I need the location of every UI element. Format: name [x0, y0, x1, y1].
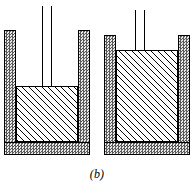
hatched-material-left: [16, 86, 78, 142]
piston-rod-right: [135, 10, 145, 50]
left-cylinder-wall-right: [78, 30, 90, 155]
right-cylinder: [97, 0, 194, 160]
right-cylinder-wall-left: [104, 35, 116, 155]
headspace-right-chamber: [52, 31, 78, 86]
piston-rod-left: [42, 6, 52, 86]
left-cylinder-wall-left: [4, 30, 16, 155]
right-cylinder-wall-right: [178, 35, 190, 155]
headspace-left-chamber: [16, 31, 42, 86]
right-cylinder-base: [104, 142, 190, 155]
hatched-material-right: [116, 50, 178, 142]
left-cylinder: [0, 0, 97, 160]
figure-container: (b): [0, 0, 194, 182]
headspace-right-right-gap: [145, 36, 171, 50]
left-cylinder-base: [4, 142, 90, 155]
figure-caption: (b): [0, 168, 194, 180]
